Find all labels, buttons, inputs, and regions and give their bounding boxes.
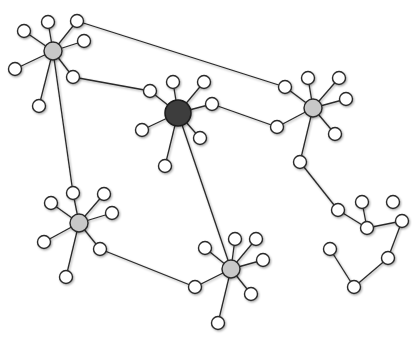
graph-edge (73, 77, 150, 91)
leaf-node (361, 222, 374, 235)
leaf-node (38, 236, 51, 249)
node-layer (9, 15, 409, 330)
leaf-node (199, 242, 212, 255)
hub-node (304, 99, 322, 117)
leaf-node (18, 25, 31, 38)
leaf-node (302, 72, 315, 85)
leaf-node (271, 121, 284, 134)
leaf-node (279, 81, 292, 94)
leaf-node (212, 317, 225, 330)
leaf-node (382, 252, 395, 265)
graph-edge (77, 21, 285, 87)
leaf-node (294, 156, 307, 169)
network-graph (0, 0, 419, 342)
leaf-node (348, 281, 361, 294)
leaf-node (229, 233, 242, 246)
hub-node (222, 260, 240, 278)
leaf-node (194, 132, 207, 145)
leaf-node (324, 243, 337, 256)
leaf-node (159, 160, 172, 173)
graph-edge (212, 104, 277, 127)
leaf-node (340, 93, 353, 106)
leaf-node (45, 197, 58, 210)
leaf-node (144, 85, 157, 98)
leaf-node (387, 196, 400, 209)
leaf-node (333, 72, 346, 85)
graph-edge (100, 249, 195, 287)
leaf-node (67, 187, 80, 200)
leaf-node (94, 243, 107, 256)
leaf-node (78, 35, 91, 48)
leaf-node (356, 196, 369, 209)
leaf-node (250, 233, 263, 246)
leaf-node (98, 188, 111, 201)
leaf-node (60, 271, 73, 284)
leaf-node (329, 128, 342, 141)
hub-node (44, 42, 62, 60)
leaf-node (136, 124, 149, 137)
graph-edge (300, 162, 338, 210)
leaf-node (332, 204, 345, 217)
leaf-node (9, 63, 22, 76)
leaf-node (71, 15, 84, 28)
leaf-node (67, 71, 80, 84)
leaf-node (33, 100, 46, 113)
leaf-node (167, 76, 180, 89)
leaf-node (198, 76, 211, 89)
leaf-node (257, 254, 270, 267)
hub-node (70, 214, 88, 232)
leaf-node (189, 281, 202, 294)
leaf-node (396, 215, 409, 228)
center-node (165, 100, 191, 126)
leaf-node (206, 98, 219, 111)
leaf-node (106, 207, 119, 220)
leaf-node (245, 288, 258, 301)
leaf-node (42, 16, 55, 29)
